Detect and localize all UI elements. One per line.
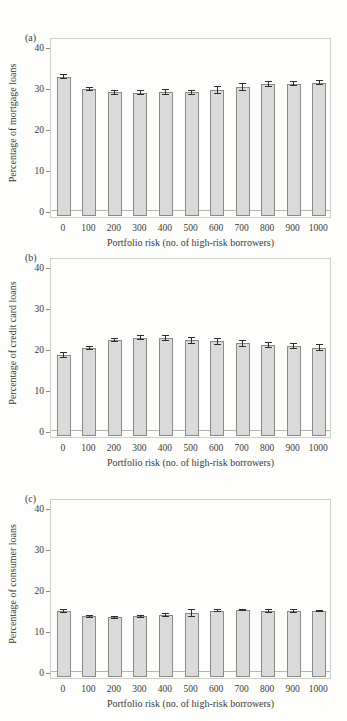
x-tick-label: 100 [76,222,102,234]
y-tick-label: 0 [0,426,44,438]
x-tick-labels: 01002003004005006007008009001000 [50,442,331,454]
bar-600 [210,611,224,678]
x-tick-label: 700 [229,222,255,234]
y-tick-label: 40 [0,262,44,274]
error-bar-500 [188,337,195,344]
x-tick-label: 500 [178,683,204,695]
x-tick-label: 900 [280,222,306,234]
x-tick-label: 100 [76,442,102,454]
bar-800 [261,611,275,677]
error-bar-700 [239,83,246,91]
y-tick-mark [46,212,50,213]
error-bar-0 [60,609,67,613]
bar-700 [236,343,250,436]
bar-900 [287,84,301,217]
bar-400 [159,615,173,677]
x-tick-label: 600 [203,222,229,234]
error-bar-600 [214,86,221,93]
chart-panel-b: (b) Percentage of credit card loans 0100… [0,240,347,480]
y-tick-mark [46,632,50,633]
error-bar-600 [214,609,221,612]
bar-300 [133,93,147,216]
bar-300 [133,616,147,677]
bar-400 [159,92,173,216]
error-bar-400 [162,335,169,341]
y-tick-mark [46,171,50,172]
x-tick-label: 700 [229,442,255,454]
y-tick-mark [46,509,50,510]
x-tick-label: 0 [50,222,76,234]
error-bar-500 [188,90,195,95]
error-bar-1000 [316,610,323,612]
x-tick-label: 300 [127,683,153,695]
bar-500 [185,613,199,677]
error-bar-0 [60,352,67,359]
error-bar-600 [214,338,221,345]
y-tick-label: 30 [0,83,44,95]
x-axis-title: Portfolio risk (no. of high-risk borrowe… [50,457,331,468]
bar-900 [287,346,301,436]
x-tick-label: 400 [152,442,178,454]
y-tick-mark [46,673,50,674]
y-tick-label: 20 [0,124,44,136]
y-tick-mark [46,268,50,269]
bar-100 [82,616,96,677]
x-tick-label: 500 [178,442,204,454]
y-tick-label: 30 [0,303,44,315]
y-tick-label: 40 [0,42,44,54]
error-bar-900 [290,609,297,612]
bar-200 [108,340,122,436]
x-tick-label: 600 [203,442,229,454]
x-tick-label: 0 [50,442,76,454]
error-bar-800 [265,609,272,612]
bar-100 [82,348,96,436]
x-tick-label: 100 [76,683,102,695]
y-tick-mark [46,89,50,90]
x-tick-labels: 01002003004005006007008009001000 [50,222,331,234]
error-bar-800 [265,342,272,348]
error-bar-100 [86,615,93,618]
y-tick-mark [46,391,50,392]
x-tick-label: 200 [101,222,127,234]
y-tick-label: 20 [0,585,44,597]
x-tick-label: 800 [254,222,280,234]
y-tick-label: 10 [0,626,44,638]
bar-700 [236,87,250,216]
chart-panel-a: (a) Percentage of mortgage loans 0100200… [0,20,347,260]
x-tick-label: 400 [152,683,178,695]
y-tick-label: 10 [0,165,44,177]
bar-1000 [312,348,326,436]
y-tick-label: 0 [0,206,44,218]
x-tick-label: 800 [254,442,280,454]
bar-600 [210,90,224,216]
x-tick-label: 800 [254,683,280,695]
x-tick-label: 600 [203,683,229,695]
error-bar-200 [111,616,118,618]
bar-300 [133,338,147,436]
bar-900 [287,611,301,677]
y-axis-title: Percentage of credit card loans [7,263,21,423]
bar-700 [236,610,250,677]
y-axis-title: Percentage of consumer loans [7,504,21,664]
error-bar-100 [86,87,93,91]
bar-800 [261,345,275,436]
error-bar-400 [162,89,169,95]
bar-1000 [312,611,326,677]
x-tick-label: 300 [127,442,153,454]
bar-0 [57,611,71,677]
bar-200 [108,617,122,677]
x-tick-label: 700 [229,683,255,695]
y-tick-label: 20 [0,344,44,356]
y-tick-mark [46,130,50,131]
y-tick-label: 10 [0,385,44,397]
error-bar-800 [265,81,272,87]
y-tick-label: 0 [0,667,44,679]
y-axis-title: Percentage of mortgage loans [7,43,21,203]
y-tick-label: 30 [0,544,44,556]
x-tick-label: 200 [101,442,127,454]
y-tick-mark [46,350,50,351]
plot-area [50,499,331,679]
bar-500 [185,92,199,216]
error-bar-1000 [316,344,323,351]
x-tick-label: 500 [178,222,204,234]
